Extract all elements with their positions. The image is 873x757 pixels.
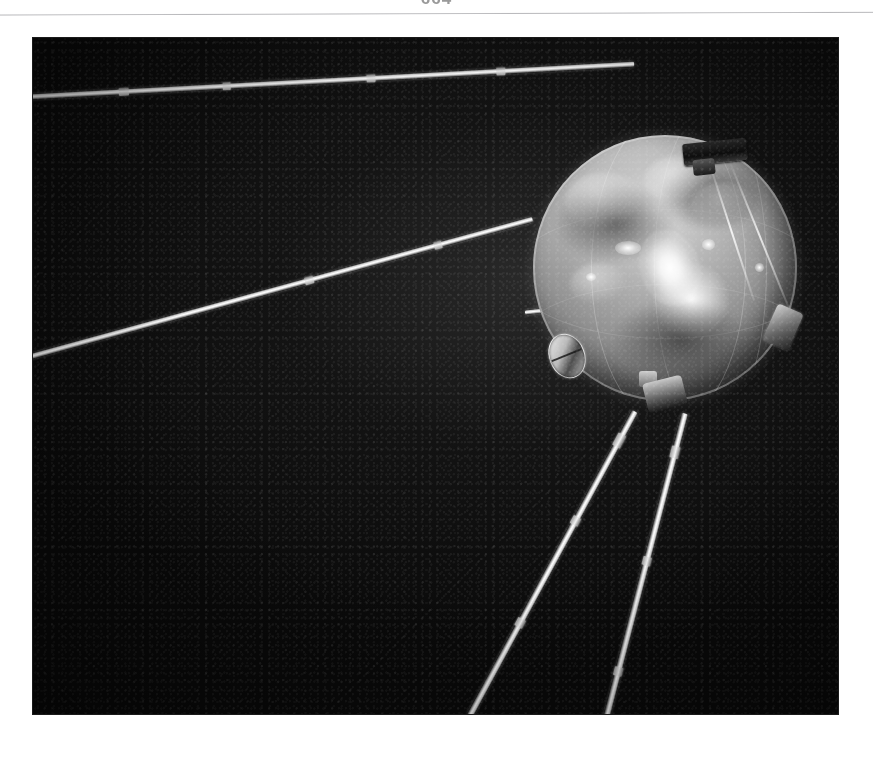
- header-rule: [0, 11, 873, 16]
- page-number: 664: [0, 0, 873, 9]
- sputnik-sphere: [533, 135, 797, 401]
- top-antenna-collar: [692, 158, 716, 176]
- scanned-page: 664: [0, 0, 873, 757]
- figure-sputnik-photograph: [33, 38, 838, 714]
